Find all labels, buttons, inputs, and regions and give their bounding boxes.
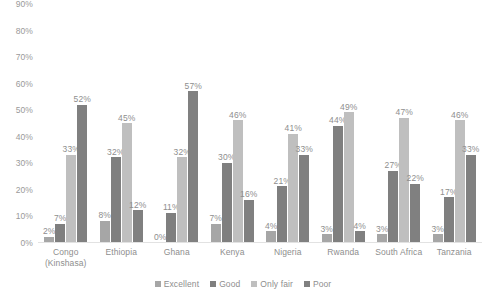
bar[interactable]	[188, 91, 198, 242]
bar-slot: 17%	[444, 4, 454, 242]
bar-slot: 2%	[44, 4, 54, 242]
bar[interactable]	[66, 155, 76, 242]
legend-swatch-icon	[155, 281, 161, 287]
bar[interactable]	[377, 234, 387, 242]
category-label: Rwanda	[316, 247, 372, 279]
bar-slot: 27%	[388, 4, 398, 242]
legend-item[interactable]: Good	[210, 280, 240, 289]
y-axis-tick-label: 10%	[16, 212, 33, 221]
bar[interactable]	[277, 186, 287, 242]
bar-value-label: 4%	[265, 222, 278, 231]
bar-value-label: 33%	[296, 145, 313, 154]
bar[interactable]	[77, 105, 87, 243]
bar[interactable]	[211, 224, 221, 243]
bar[interactable]	[455, 120, 465, 242]
legend-label: Only fair	[260, 280, 293, 289]
bar-slot: 3%	[377, 4, 387, 242]
bar-value-label: 22%	[407, 174, 424, 183]
y-axis-tick-label: 60%	[16, 79, 33, 88]
category-label: Kenya	[205, 247, 261, 279]
bar[interactable]	[266, 231, 276, 242]
bar[interactable]	[222, 163, 232, 242]
bar[interactable]	[233, 120, 243, 242]
bar-value-label: 33%	[462, 145, 479, 154]
bar[interactable]	[55, 224, 65, 243]
bar-slot: 30%	[222, 4, 232, 242]
bar[interactable]	[166, 213, 176, 242]
bar[interactable]	[410, 184, 420, 242]
y-axis-tick-label: 50%	[16, 106, 33, 115]
bar[interactable]	[388, 171, 398, 242]
bar-slot: 52%	[77, 4, 87, 242]
bar[interactable]	[299, 155, 309, 242]
bar-group: 2%7%33%52%	[38, 4, 94, 242]
bar-slot: 16%	[244, 4, 254, 242]
legend-label: Excellent	[164, 280, 199, 289]
bar[interactable]	[244, 200, 254, 242]
bar[interactable]	[100, 221, 110, 242]
y-axis-tick-label: 80%	[16, 26, 33, 35]
bar-value-label: 7%	[54, 214, 67, 223]
bar-value-label: 8%	[99, 211, 112, 220]
bar-slot: 46%	[455, 4, 465, 242]
y-axis: 0%10%20%30%40%50%60%70%80%90%	[0, 0, 38, 243]
bar-slot: 33%	[299, 4, 309, 242]
category-axis-labels: Congo(Kinshasa)EthiopiaGhanaKenyaNigeria…	[38, 247, 482, 279]
bar-group: 8%32%45%12%	[94, 4, 150, 242]
bar[interactable]	[344, 112, 354, 242]
bar-value-label: 12%	[129, 201, 146, 210]
y-axis-tick-label: 40%	[16, 133, 33, 142]
legend-swatch-icon	[210, 281, 216, 287]
bar-slot: 33%	[466, 4, 476, 242]
bar[interactable]	[111, 157, 121, 242]
y-axis-tick-label: 30%	[16, 159, 33, 168]
bar-value-label: 52%	[74, 95, 91, 104]
bar-slot: 32%	[111, 4, 121, 242]
bar-slot: 7%	[211, 4, 221, 242]
legend-item[interactable]: Poor	[304, 280, 331, 289]
bar-group: 0%11%32%57%	[149, 4, 205, 242]
bar[interactable]	[355, 231, 365, 242]
legend-item[interactable]: Only fair	[251, 280, 293, 289]
y-axis-tick-label: 0%	[21, 239, 34, 248]
legend-item[interactable]: Excellent	[155, 280, 199, 289]
bar-slot: 4%	[266, 4, 276, 242]
bar-slot: 44%	[333, 4, 343, 242]
bar[interactable]	[333, 126, 343, 242]
bar-group: 7%30%46%16%	[205, 4, 261, 242]
category-label: Ethiopia	[94, 247, 150, 279]
bar[interactable]	[177, 157, 187, 242]
bar-slot: 32%	[177, 4, 187, 242]
bar-value-label: 4%	[354, 222, 367, 231]
y-axis-tick-label: 20%	[16, 186, 33, 195]
bar-value-label: 3%	[376, 225, 389, 234]
legend-label: Poor	[313, 280, 331, 289]
bar-slot: 11%	[166, 4, 176, 242]
bar[interactable]	[444, 197, 454, 242]
bar-slot: 57%	[188, 4, 198, 242]
bar-slot: 22%	[410, 4, 420, 242]
legend-label: Good	[219, 280, 240, 289]
bar[interactable]	[122, 123, 132, 242]
bar-group: 4%21%41%33%	[260, 4, 316, 242]
y-axis-tick-label: 90%	[16, 0, 33, 8]
bar[interactable]	[322, 234, 332, 242]
category-label: Tanzania	[427, 247, 483, 279]
legend-swatch-icon	[251, 281, 257, 287]
category-label: South Africa	[371, 247, 427, 279]
y-axis-tick-label: 70%	[16, 53, 33, 62]
bar[interactable]	[433, 234, 443, 242]
bar-group: 3%44%49%4%	[316, 4, 372, 242]
bar-group: 3%17%46%33%	[427, 4, 483, 242]
bar-value-label: 3%	[432, 225, 445, 234]
bar-slot: 3%	[433, 4, 443, 242]
bar-slot: 4%	[355, 4, 365, 242]
bar[interactable]	[133, 210, 143, 242]
legend-swatch-icon	[304, 281, 310, 287]
category-label: Nigeria	[260, 247, 316, 279]
bar[interactable]	[466, 155, 476, 242]
grouped-bar-chart: 0%10%20%30%40%50%60%70%80%90% 2%7%33%52%…	[0, 0, 486, 299]
bar-slot: 33%	[66, 4, 76, 242]
chart-legend: ExcellentGoodOnly fairPoor	[0, 280, 486, 289]
plot-area: 2%7%33%52%8%32%45%12%0%11%32%57%7%30%46%…	[38, 4, 482, 243]
